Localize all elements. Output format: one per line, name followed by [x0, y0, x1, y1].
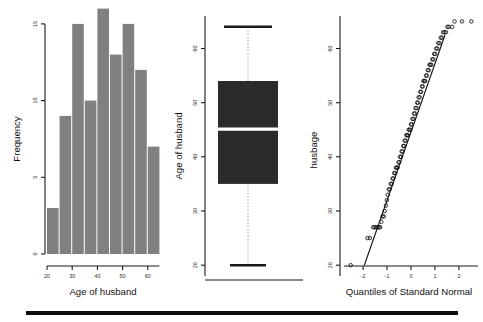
qqplot-ytick-40: 40: [327, 154, 333, 160]
histogram-ytick-10: 10: [32, 98, 38, 104]
qqplot-panel: 20 30 40 50 60 -2 -1 0 1 2 husbage: [300, 0, 483, 300]
boxplot-ytick-40: 40: [192, 154, 198, 160]
qq-data-point: [453, 20, 457, 24]
qqplot-ytick-20: 20: [327, 262, 333, 268]
qqplot-x-axis-label: Quantiles of Standard Normal: [346, 286, 472, 297]
boxplot-y-axis-label: Age of husband: [173, 112, 184, 179]
histogram-ytick-15: 15: [32, 21, 38, 27]
qqplot-xtick-neg1: -1: [385, 273, 390, 279]
boxplot-box: [218, 81, 278, 184]
histogram-panel: 0 5 10 15: [0, 0, 162, 300]
histogram-bar: [72, 24, 84, 254]
qqplot-y-ticks: [336, 49, 340, 266]
histogram-bar: [148, 147, 160, 254]
qqplot-ytick-50: 50: [327, 100, 333, 106]
histogram-xtick-50: 50: [120, 273, 126, 279]
histogram-y-ticks: [41, 24, 45, 254]
qqplot-xtick-1: 1: [433, 273, 436, 279]
histogram-xtick-60: 60: [145, 273, 151, 279]
qqplot-xtick-0: 0: [410, 273, 413, 279]
histogram-bar: [123, 24, 135, 254]
histogram-bar: [97, 9, 109, 254]
qq-data-point: [460, 20, 464, 24]
histogram-bar: [85, 101, 97, 254]
histogram-bar: [110, 55, 122, 254]
histogram-x-axis-label: Age of husband: [69, 286, 136, 297]
boxplot-ytick-60: 60: [192, 46, 198, 52]
bottom-horizontal-rule: [26, 311, 458, 315]
histogram-xtick-40: 40: [94, 273, 100, 279]
histogram-x-ticks: [47, 266, 148, 270]
qq-data-point: [380, 220, 384, 224]
qqplot-y-axis-label: husbage: [308, 132, 319, 169]
qqplot-points: [349, 20, 473, 267]
statistics-figure: 0 5 10 15: [0, 0, 483, 300]
histogram-bar: [47, 208, 59, 254]
qqplot-svg: 20 30 40 50 60 -2 -1 0 1 2 husbage: [300, 0, 483, 300]
qqplot-ytick-30: 30: [327, 208, 333, 214]
boxplot-ytick-50: 50: [192, 100, 198, 106]
qq-data-point: [368, 236, 372, 240]
histogram-bar: [135, 70, 147, 254]
boxplot-ytick-20: 20: [192, 262, 198, 268]
histogram-svg: 0 5 10 15: [0, 0, 162, 300]
histogram-ytick-0: 0: [32, 253, 38, 256]
boxplot-svg: 20 30 40 50 60 Age of husband: [160, 0, 305, 300]
histogram-ytick-5: 5: [32, 176, 38, 179]
qqplot-ytick-60: 60: [327, 46, 333, 52]
qq-reference-line: [364, 35, 445, 265]
boxplot-panel: 20 30 40 50 60 Age of husband: [160, 0, 305, 300]
qqplot-x-ticks: [363, 266, 459, 270]
boxplot-y-ticks: [201, 49, 205, 266]
qqplot-xtick-2: 2: [457, 273, 460, 279]
histogram-xtick-20: 20: [44, 273, 50, 279]
histogram-xtick-30: 30: [69, 273, 75, 279]
histogram-bar: [60, 116, 72, 254]
qqplot-xtick-neg2: -2: [361, 273, 366, 279]
histogram-bars: [47, 9, 159, 254]
qq-data-point: [470, 20, 474, 24]
boxplot-ytick-30: 30: [192, 208, 198, 214]
histogram-y-axis-label: Frequency: [11, 116, 22, 162]
